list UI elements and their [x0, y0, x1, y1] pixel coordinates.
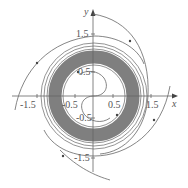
x-tick-label: 1.5 [146, 99, 159, 110]
y-axis-arrow-icon [91, 9, 96, 16]
y-tick-label: 1.5 [76, 28, 89, 39]
arrow-marker-icon [129, 40, 131, 42]
y-axis-label: y [83, 6, 89, 17]
phase-portrait-plot: -1.5 -0.5 0.5 1.5 1.5 0.5 -0.5 -1.5 x y [0, 0, 188, 188]
y-tick-label: 0.5 [78, 66, 91, 77]
arrow-marker-icon [62, 155, 64, 157]
x-axis-label: x [171, 98, 177, 109]
x-tick-label: 0.5 [108, 99, 121, 110]
axes [12, 9, 178, 172]
arrow-marker-icon [116, 114, 118, 116]
y-tick-label: -1.5 [74, 152, 90, 163]
x-tick-label: -0.5 [62, 99, 78, 110]
arrow-marker-icon [36, 62, 38, 64]
y-tick-label: -0.5 [76, 112, 92, 123]
x-tick-label: -1.5 [20, 99, 36, 110]
arrow-marker-icon [153, 119, 155, 121]
